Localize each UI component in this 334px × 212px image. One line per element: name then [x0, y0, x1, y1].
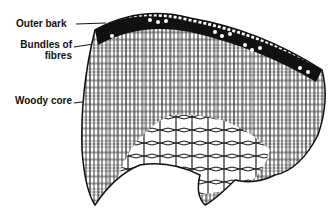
stem-cross-section-illustration: [0, 0, 334, 212]
leader-line-outer-bark: [76, 23, 106, 24]
